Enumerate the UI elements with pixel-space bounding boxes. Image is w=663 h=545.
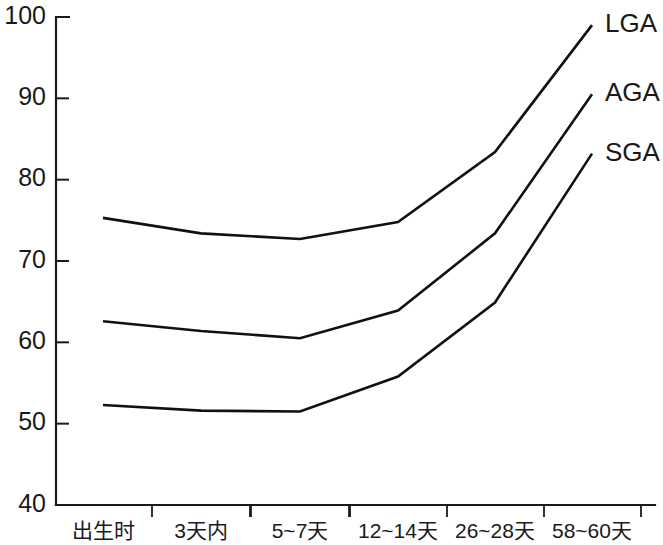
series-line-aga	[103, 94, 592, 338]
x-tick-label: 26~28天	[455, 519, 535, 542]
y-tick-label: 80	[18, 163, 46, 191]
chart-axes	[56, 17, 655, 505]
chart-figure: 405060708090100 出生时3天内5~7天12~14天26~28天58…	[0, 0, 663, 545]
x-tick-label: 出生时	[72, 519, 135, 542]
x-tick-label: 12~14天	[358, 519, 438, 542]
x-tick-label: 58~60天	[552, 519, 632, 542]
line-chart-canvas: 405060708090100 出生时3天内5~7天12~14天26~28天58…	[0, 0, 663, 545]
x-tick-label: 3天内	[174, 519, 228, 542]
y-tick-label: 40	[18, 489, 46, 517]
y-tick-label: 100	[4, 1, 46, 29]
series-label-sga: SGA	[605, 137, 661, 167]
y-axis-ticks	[56, 17, 69, 505]
x-axis-ticks	[152, 505, 641, 517]
y-tick-label: 60	[18, 326, 46, 354]
y-tick-label: 50	[18, 407, 46, 435]
chart-series-lines	[103, 25, 592, 411]
x-axis-tick-labels: 出生时3天内5~7天12~14天26~28天58~60天	[72, 519, 632, 542]
series-line-lga	[103, 25, 592, 239]
y-tick-label: 90	[18, 82, 46, 110]
series-line-sga	[103, 154, 592, 412]
series-legend: LGAAGASGA	[605, 8, 661, 167]
y-tick-label: 70	[18, 245, 46, 273]
series-label-lga: LGA	[605, 8, 658, 38]
x-tick-label: 5~7天	[272, 519, 329, 542]
series-label-aga: AGA	[605, 77, 661, 107]
y-axis-tick-labels: 405060708090100	[4, 1, 46, 517]
